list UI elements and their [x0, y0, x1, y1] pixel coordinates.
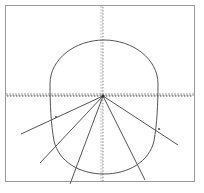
origin-point — [101, 94, 104, 97]
geometry-figure — [0, 0, 204, 193]
marker-right-chord — [158, 128, 160, 130]
figure-container — [0, 0, 204, 193]
marker-left-chord — [55, 116, 57, 118]
